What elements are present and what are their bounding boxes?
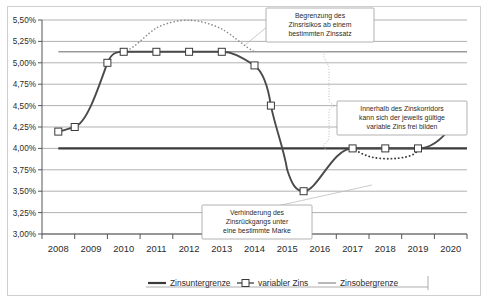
- x-tick-label: 2013: [211, 243, 232, 254]
- x-tick-label: 2011: [146, 243, 166, 254]
- x-tick-label: 2018: [375, 243, 396, 254]
- legend-swatch-square-marker-icon: [242, 280, 249, 287]
- legend-item-variabler-zins[interactable]: variabler Zins: [237, 278, 308, 288]
- y-tick-label: 3,75%: [13, 166, 36, 175]
- y-tick-label: 4,00%: [13, 144, 36, 153]
- legend-label: Zinsobergrenze: [340, 278, 399, 288]
- annotation-corridor-line1: Innerhalb des Zinskorridors: [360, 105, 444, 112]
- data-point-marker: [104, 59, 111, 66]
- x-tick-label: 2014: [244, 243, 265, 254]
- data-point-marker: [415, 145, 422, 152]
- data-point-marker: [186, 48, 193, 55]
- y-tick-label: 5,50%: [13, 16, 36, 25]
- x-tick-label: 2019: [408, 243, 429, 254]
- y-tick-label: 3,50%: [13, 187, 36, 196]
- x-tick-label: 2008: [48, 243, 69, 254]
- data-point-marker: [251, 62, 258, 69]
- y-tick-marks: [38, 20, 42, 234]
- legend-label: Zinsuntergrenze: [170, 278, 231, 288]
- chart-legend: Zinsuntergrenze variabler Zins Zinsoberg…: [146, 276, 428, 290]
- data-point-marker: [218, 48, 225, 55]
- legend-item-zinsobergrenze[interactable]: Zinsobergrenze: [318, 278, 399, 288]
- data-point-marker: [382, 145, 389, 152]
- data-point-marker: [120, 48, 127, 55]
- annotation-cap-line1: Begrenzung des: [295, 12, 346, 20]
- annotation-corridor-line3: variable Zins frei bilden: [367, 123, 438, 130]
- y-tick-label: 4,50%: [13, 102, 36, 111]
- data-point-marker: [349, 145, 356, 152]
- annotation-floor-line1: Verhinderung des: [230, 209, 285, 217]
- annotation-cap-line3: bestimmten Zinssatz: [288, 30, 352, 37]
- legend-label: variabler Zins: [258, 278, 308, 288]
- x-axis-labels: 2008 2009 2010 2011 2012 2013 2014 2015 …: [48, 243, 461, 254]
- x-tick-label: 2016: [309, 243, 330, 254]
- y-tick-label: 5,00%: [13, 59, 36, 68]
- data-point-marker: [153, 48, 160, 55]
- annotation-corridor-line2: kann sich der jeweils gültige: [359, 114, 445, 122]
- legend-item-zinsuntergrenze[interactable]: Zinsuntergrenze: [148, 278, 231, 288]
- annotation-cap-line2: Zinsrisikos ab einem: [289, 21, 352, 28]
- y-tick-label: 3,00%: [13, 230, 36, 239]
- x-tick-label: 2015: [277, 243, 298, 254]
- y-tick-label: 4,75%: [13, 80, 36, 89]
- data-point-marker: [71, 124, 78, 131]
- y-tick-label: 3,25%: [13, 209, 36, 218]
- y-axis-labels: 5,50% 5,25% 5,00% 4,75% 4,50% 4,25% 4,00…: [13, 16, 36, 239]
- data-point-marker: [267, 102, 274, 109]
- y-tick-label: 5,25%: [13, 37, 36, 46]
- x-tick-label: 2012: [179, 243, 200, 254]
- x-tick-label: 2009: [81, 243, 102, 254]
- data-point-marker: [55, 128, 62, 135]
- annotation-floor-line3: eine bestimmte Marke: [223, 227, 291, 234]
- data-point-marker: [300, 188, 307, 195]
- y-tick-label: 4,25%: [13, 123, 36, 132]
- annotation-floor-line2: Zinsrückgangs unter: [226, 218, 289, 226]
- x-tick-label: 2020: [440, 243, 461, 254]
- x-tick-label: 2017: [342, 243, 363, 254]
- interest-corridor-chart: 5,50% 5,25% 5,00% 4,75% 4,50% 4,25% 4,00…: [0, 0, 490, 305]
- x-tick-label: 2010: [113, 243, 134, 254]
